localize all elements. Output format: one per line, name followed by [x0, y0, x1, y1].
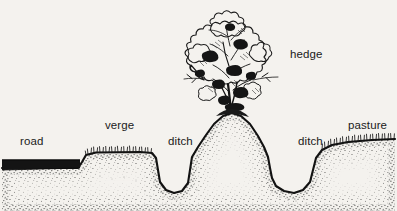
road-surface [2, 160, 80, 170]
label-verge: verge [105, 119, 134, 131]
label-ditch-right: ditch [298, 135, 323, 147]
label-road: road [20, 135, 43, 147]
cross-section-figure [0, 0, 397, 211]
label-ditch-left: ditch [168, 135, 193, 147]
label-hedge: hedge [290, 48, 322, 60]
label-pasture: pasture [348, 119, 387, 131]
